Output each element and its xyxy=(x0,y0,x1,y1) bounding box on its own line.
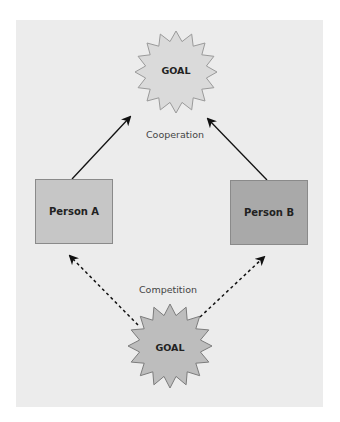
competition-arrow-b xyxy=(200,257,264,317)
bottom-goal-label: GOAL xyxy=(155,342,184,353)
person-a-box: Person A xyxy=(35,179,113,244)
cooperation-label: Cooperation xyxy=(146,129,204,140)
person-b-box: Person B xyxy=(230,180,308,245)
cooperation-arrow-a xyxy=(72,117,130,179)
top-goal-label: GOAL xyxy=(161,65,190,76)
competition-label: Competition xyxy=(139,284,197,295)
person-a-label: Person A xyxy=(49,206,99,217)
competition-arrow-a xyxy=(70,256,138,325)
cooperation-arrow-b xyxy=(208,119,267,180)
person-b-label: Person B xyxy=(244,207,294,218)
